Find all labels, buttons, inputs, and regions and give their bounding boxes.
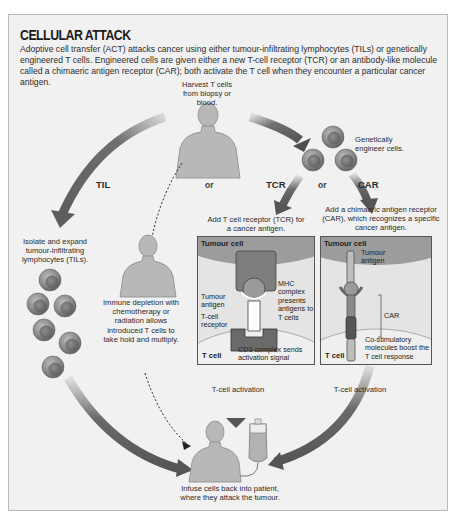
tcr-panel: Tumour cell Tumour antigen MHC complex p… xyxy=(197,236,315,365)
tcr-step-label: Add T cell receptor (TCR) for a cancer a… xyxy=(206,215,306,233)
tcr-activation-label: T-cell activation xyxy=(208,385,268,394)
tcr-tumour-cell-label: Tumour cell xyxy=(201,239,243,248)
til-step-label: Isolate and expand tumour-infiltrating l… xyxy=(18,237,92,265)
branch-or-2: or xyxy=(318,180,327,190)
branch-or-1: or xyxy=(205,180,214,190)
patient-silhouette-middle xyxy=(120,235,176,297)
arrow-infuse-dotted xyxy=(145,373,187,444)
tcr-tumour-antigen-label: Tumour antigen xyxy=(201,293,233,310)
car-tumour-antigen-label: Tumour antigen xyxy=(361,249,401,266)
patient-silhouette-top xyxy=(176,103,240,178)
branch-car: CAR xyxy=(358,179,379,190)
tcr-receptor-label: T-cell receptor xyxy=(201,313,235,330)
car-t-cell-label: T cell xyxy=(325,351,344,360)
mhc-label: MHC complex presents antigens to T cells xyxy=(278,280,315,322)
iv-bag-icon xyxy=(240,419,267,476)
depletion-label: Immune depletion with chemotherapy or ra… xyxy=(103,298,179,344)
car-step-label: Add a chimaeric antigen receptor (CAR), … xyxy=(322,205,440,233)
cd3-label: CD3 complex sends activation signal xyxy=(238,346,315,363)
harvest-label: Harvest T cells from biopsy or blood. xyxy=(174,80,240,108)
branch-til: TIL xyxy=(96,179,110,190)
arrow-engineer xyxy=(250,117,300,140)
arrow-car-activation xyxy=(275,366,370,462)
tcr-t-cell-label: T cell xyxy=(202,351,221,360)
arrow-til-infuse xyxy=(68,378,180,469)
branch-tcr: TCR xyxy=(266,179,286,190)
car-activation-label: T-cell activation xyxy=(330,385,390,394)
engineer-label: Genetically engineer cells. xyxy=(355,135,415,153)
car-tumour-cell-label: Tumour cell xyxy=(324,239,366,248)
engineered-cells-icon xyxy=(302,126,357,171)
patient-silhouette-bottom xyxy=(189,421,241,482)
car-label: CAR xyxy=(384,312,399,320)
car-panel: Tumour cell Tumour antigen CAR T cell Co… xyxy=(320,236,432,365)
costim-label: Co-stimulatory molecules boost the T cel… xyxy=(365,336,432,361)
infuse-label: Infuse cells back into patient, where th… xyxy=(170,484,290,502)
arrow-til xyxy=(62,117,165,215)
til-cells-icon xyxy=(27,269,81,378)
